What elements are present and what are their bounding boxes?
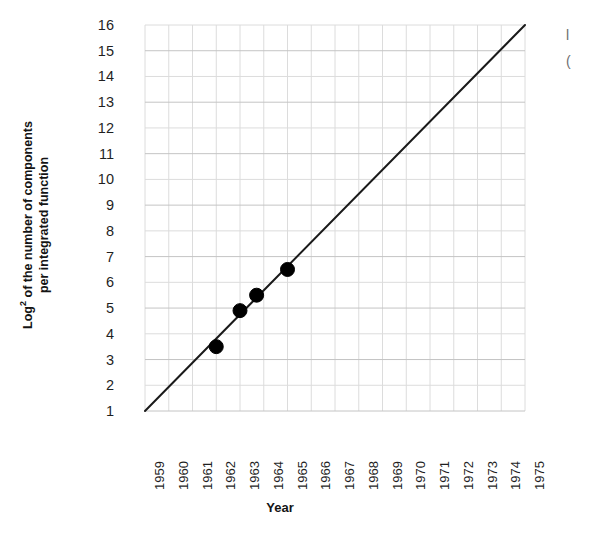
y-axis-tick-2: 2 [78, 378, 114, 393]
x-axis-tick-1974: 1974 [507, 420, 525, 490]
y-axis-tick-16: 16 [78, 18, 114, 33]
y-axis-label-superscript: 2 [18, 301, 28, 306]
y-axis-tick-12: 12 [78, 121, 114, 136]
x-axis-tick-1975: 1975 [531, 420, 549, 490]
y-axis-tick-13: 13 [78, 95, 114, 110]
plot-area [120, 18, 540, 422]
y-axis-tick-3: 3 [78, 352, 114, 367]
page-margin-text-line1: l [566, 22, 590, 48]
x-axis-tick-1964: 1964 [270, 420, 288, 490]
y-axis-tick-4: 4 [78, 327, 114, 342]
y-axis-tick-14: 14 [78, 69, 114, 84]
y-axis-tick-6: 6 [78, 275, 114, 290]
x-axis-tick-1967: 1967 [341, 420, 359, 490]
y-axis-label-line2: per integrated function [36, 157, 50, 293]
y-axis-label-line1-prefix: Log [21, 306, 35, 329]
page-margin-text: l ( [566, 22, 590, 82]
x-axis-tick-1966: 1966 [317, 420, 335, 490]
x-axis-tick-1961: 1961 [199, 420, 217, 490]
y-axis-tick-labels: 16151413121110987654321 [78, 0, 114, 540]
x-axis-tick-1971: 1971 [436, 420, 454, 490]
x-axis-tick-1972: 1972 [460, 420, 478, 490]
y-axis-label-line1-rest: of the number of components [21, 121, 35, 301]
x-axis-tick-1960: 1960 [175, 420, 193, 490]
x-axis-tick-1973: 1973 [484, 420, 502, 490]
chart-figure: Log2 of the number of components per int… [0, 0, 590, 540]
x-axis-tick-labels: 1959196019611962196319641965196619671968… [120, 422, 540, 492]
y-axis-label: Log2 of the number of components per int… [21, 121, 52, 329]
y-axis-tick-8: 8 [78, 224, 114, 239]
x-axis-tick-1970: 1970 [412, 420, 430, 490]
plot-svg [120, 18, 540, 422]
x-axis-tick-1965: 1965 [294, 420, 312, 490]
y-axis-tick-15: 15 [78, 43, 114, 58]
x-axis-label: Year [0, 500, 560, 515]
x-axis-tick-1962: 1962 [222, 420, 240, 490]
x-axis-tick-1963: 1963 [246, 420, 264, 490]
y-axis-tick-1: 1 [78, 404, 114, 419]
page-margin-text-line2: ( [566, 48, 590, 74]
x-axis-tick-1959: 1959 [151, 420, 169, 490]
y-axis-tick-9: 9 [78, 198, 114, 213]
x-axis-tick-1969: 1969 [389, 420, 407, 490]
y-axis-tick-7: 7 [78, 249, 114, 264]
y-axis-tick-11: 11 [78, 146, 114, 161]
y-axis-label-container: Log2 of the number of components per int… [14, 60, 58, 390]
y-axis-tick-10: 10 [78, 172, 114, 187]
y-axis-tick-5: 5 [78, 301, 114, 316]
x-axis-tick-1968: 1968 [365, 420, 383, 490]
